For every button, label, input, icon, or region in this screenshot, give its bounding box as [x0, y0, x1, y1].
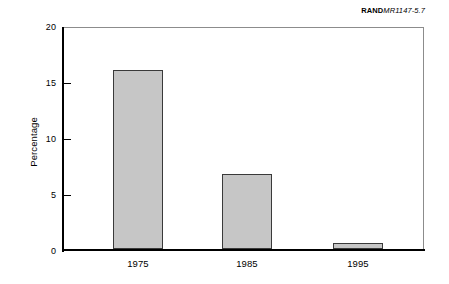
- x-axis-tick-label: 1995: [318, 259, 398, 269]
- x-axis-tick-label: 1985: [207, 259, 287, 269]
- rand-brand-label: RAND: [361, 6, 383, 15]
- bar: [222, 174, 272, 249]
- y-axis-tick-label: 0: [16, 247, 56, 256]
- x-axis-line: [62, 249, 425, 251]
- y-axis-tick-label: 5: [16, 191, 56, 200]
- y-axis-tick-label: 15: [16, 79, 56, 88]
- y-axis-line: [62, 27, 64, 252]
- plot-area: [62, 27, 424, 251]
- y-axis-tick-label: 20: [16, 23, 56, 32]
- bar: [333, 243, 383, 249]
- plot-frame-right: [423, 27, 424, 251]
- bar-chart-figure: RANDMR1147-5.7 Percentage 05101520 19751…: [0, 0, 449, 284]
- rand-document-id: MR1147-5.7: [383, 6, 425, 15]
- y-axis-tick: [64, 195, 71, 196]
- rand-source-credit: RANDMR1147-5.7: [361, 7, 425, 15]
- plot-frame-top: [62, 27, 424, 28]
- y-axis-tick-label: 10: [16, 135, 56, 144]
- y-axis-tick: [64, 83, 71, 84]
- y-axis-tick: [64, 139, 71, 140]
- x-axis-tick-label: 1975: [98, 259, 178, 269]
- bar: [113, 70, 163, 249]
